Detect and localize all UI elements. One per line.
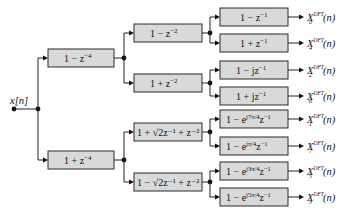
filter-box-1-plus-sqrt2: 1 + √2z⁻¹ + z⁻² bbox=[134, 123, 202, 141]
svg-text:1 − √2z⁻¹ + z⁻²: 1 − √2z⁻¹ + z⁻² bbox=[137, 177, 199, 188]
filter-box-1-plus-z-4: 1 + z−4 bbox=[48, 151, 114, 169]
output-x7: XDFT7(n) bbox=[306, 140, 336, 154]
filter-box-1-plus-z-1: 1 + z−1 bbox=[220, 34, 288, 52]
svg-text:1 + √2z⁻¹ + z⁻²: 1 + √2z⁻¹ + z⁻² bbox=[137, 127, 199, 138]
stage2-to-stage3-wires bbox=[202, 15, 220, 200]
filter-box-1-minus-z-4: 1 − z−4 bbox=[48, 49, 114, 67]
output-x0: XDFT0(n) bbox=[306, 11, 336, 25]
filter-box-e-j5pi4: 1 − ej5π/4z−1 bbox=[220, 188, 288, 206]
output-x3: XDFT3(n) bbox=[306, 191, 336, 205]
filter-box-e-j7pi4: 1 − ej7π/4z−1 bbox=[220, 110, 288, 128]
filter-box-1-minus-sqrt2: 1 − √2z⁻¹ + z⁻² bbox=[134, 173, 202, 191]
filter-box-1-plus-z-2: 1 + z−2 bbox=[134, 74, 202, 92]
output-x4: XDFT4(n) bbox=[306, 37, 336, 51]
filter-box-1-plus-jz-1: 1 + jz−1 bbox=[220, 87, 288, 105]
filter-box-1-minus-z-2: 1 − z−2 bbox=[134, 24, 202, 42]
filter-box-e-j3pi4: 1 − ej3π/4z−1 bbox=[220, 162, 288, 180]
output-x1: XDFT1(n) bbox=[306, 113, 336, 127]
input-label: x[n] bbox=[9, 95, 28, 106]
filter-box-1-minus-jz-1: 1 − jz−1 bbox=[220, 61, 288, 79]
output-x2: XDFT2(n) bbox=[306, 64, 336, 78]
dft-filter-bank-diagram: x[n] 1 − z−4 1 + z−4 1 − z−2 1 + z−2 1 +… bbox=[0, 0, 358, 222]
output-x5: XDFT5(n) bbox=[306, 165, 336, 179]
filter-box-e-jpi4: 1 − ejπ/4z−1 bbox=[220, 137, 288, 155]
filter-box-1-minus-z-1: 1 − z−1 bbox=[220, 8, 288, 26]
output-arrows bbox=[288, 15, 304, 200]
output-x6: XDFT6(n) bbox=[306, 90, 336, 104]
